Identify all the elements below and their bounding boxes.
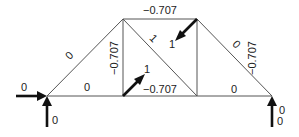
label-member-AB: 0 — [63, 49, 76, 62]
reaction-arrow-F-vertical — [267, 96, 277, 127]
label-member-AD: 0 — [84, 81, 90, 93]
truss-diagram: 0 0 −0.707 −0.707 1 −0.707 −0.707 0 0 1 … — [0, 0, 299, 137]
load-arrow-D — [123, 74, 145, 96]
label-member-EF: 0 — [231, 83, 237, 95]
label-member-CF: 0 — [230, 38, 243, 51]
label-load-C: 1 — [169, 38, 175, 50]
load-arrow-C — [175, 19, 197, 41]
label-member-DE: −0.707 — [143, 83, 177, 95]
label-load-D: 1 — [144, 63, 150, 75]
label-member-BC: −0.707 — [143, 4, 177, 16]
label-member-BD: −0.707 — [108, 41, 120, 75]
label-member-BE: 1 — [147, 32, 160, 45]
label-reaction-A-horizontal: 0 — [21, 81, 27, 93]
label-reaction-A-vertical: 0 — [52, 114, 58, 126]
label-reaction-F-vertical: 0 — [277, 115, 283, 127]
reaction-arrow-A-vertical — [42, 96, 52, 127]
label-member-CE: −0.707 — [246, 41, 258, 75]
